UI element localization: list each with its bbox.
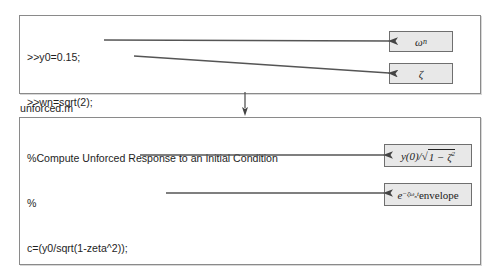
arrow-down <box>242 92 248 116</box>
connector-arrows <box>0 0 492 271</box>
arrow-wn <box>104 40 389 41</box>
arrow-zeta <box>134 56 389 73</box>
